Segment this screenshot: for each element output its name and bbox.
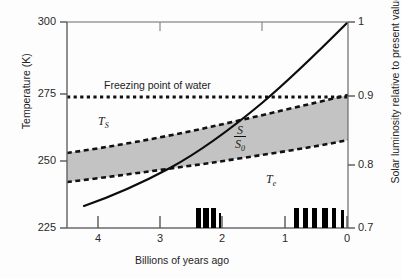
- tick-marks-x-top: [160, 22, 262, 31]
- series-ts-label: TS: [98, 115, 109, 130]
- x-axis-title: Billions of years ago: [135, 255, 229, 266]
- series-te-label-text: T: [266, 172, 273, 186]
- shaded-band: [67, 95, 348, 182]
- x-tick-4: 4: [88, 233, 108, 244]
- chart-figure: Temperature (K) Solar luminosity relativ…: [0, 0, 402, 278]
- y-left-tick-250: 250: [22, 155, 56, 166]
- y-right-tick-0-7: 0.7: [358, 222, 388, 233]
- y-right-tick-1: 1: [358, 16, 388, 27]
- series-te-label-sub: e: [273, 179, 277, 188]
- event-marker-bars: [196, 208, 344, 228]
- y-left-tick-225: 225: [22, 222, 56, 233]
- x-tick-2: 2: [212, 233, 232, 244]
- tick-marks-y-left: [60, 22, 67, 228]
- y-left-tick-275: 275: [22, 88, 56, 99]
- tick-marks-y-right: [348, 22, 355, 228]
- x-tick-1: 1: [275, 233, 295, 244]
- y-right-tick-0-9: 0.9: [358, 90, 388, 101]
- x-tick-3: 3: [150, 233, 170, 244]
- series-ts-label-sub: S: [105, 121, 109, 130]
- y-left-tick-300: 300: [22, 16, 56, 27]
- ratio-denominator: S0: [234, 137, 246, 153]
- tick-marks-x: [98, 216, 347, 228]
- x-tick-0: 0: [337, 233, 357, 244]
- freezing-point-label: Freezing point of water: [104, 80, 211, 91]
- series-te-label: Te: [266, 173, 276, 188]
- y-axis-right-title: Solar luminosity relative to present val…: [390, 0, 401, 184]
- series-ts-label-text: T: [98, 114, 105, 128]
- y-right-tick-0-8: 0.8: [358, 159, 388, 170]
- ratio-denominator-sub: 0: [241, 144, 245, 153]
- ratio-numerator: S: [234, 124, 246, 137]
- series-s-over-s0-label: S S0: [234, 124, 246, 153]
